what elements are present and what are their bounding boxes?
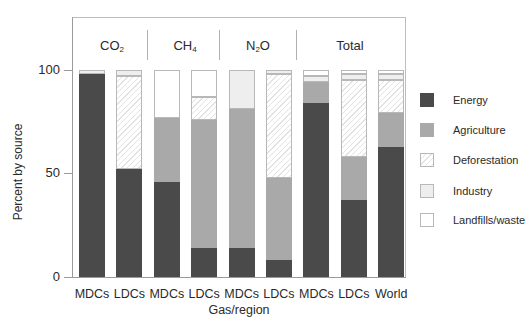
bar-segment-landfills xyxy=(154,70,180,118)
bar-segment-deforestation xyxy=(341,80,367,157)
x-axis-line xyxy=(64,277,406,278)
group-label-n2o: N2O xyxy=(238,38,278,54)
category-label: MDCs xyxy=(222,287,262,301)
bar xyxy=(266,70,292,277)
bar-segment-industry xyxy=(266,70,292,74)
y-axis-label: Percent by source xyxy=(11,124,25,221)
legend-label: Deforestation xyxy=(453,154,518,166)
bar-segment-agriculture xyxy=(229,109,255,248)
bar xyxy=(79,70,105,277)
bar xyxy=(303,70,329,277)
bar-segment-energy xyxy=(341,200,367,277)
group-label-total: Total xyxy=(325,38,375,53)
bar-segment-energy xyxy=(79,74,105,277)
bar-segment-agriculture xyxy=(378,113,404,146)
group-label-ch4: CH4 xyxy=(165,38,205,54)
bar-segment-agriculture xyxy=(191,120,217,248)
legend-label: Energy xyxy=(453,94,488,106)
y-tick-50 xyxy=(64,173,72,174)
category-label: LDCs xyxy=(109,287,149,301)
bar-segment-agriculture xyxy=(154,118,180,182)
x-axis-label: Gas/region xyxy=(179,303,299,317)
category-label: MDCs xyxy=(72,287,112,301)
bar xyxy=(191,70,217,277)
bar-segment-deforestation xyxy=(378,80,404,113)
bar xyxy=(116,70,142,277)
bar-segment-deforestation xyxy=(266,74,292,178)
y-tick-0 xyxy=(64,277,72,278)
legend-swatch-landfills xyxy=(420,213,434,227)
category-label: LDCs xyxy=(334,287,374,301)
bar-segment-industry xyxy=(79,70,105,74)
bar-segment-landfills xyxy=(191,70,217,97)
category-label: MDCs xyxy=(296,287,336,301)
bar-segment-deforestation xyxy=(116,76,142,169)
bar-segment-energy xyxy=(191,248,217,277)
bar-segment-industry xyxy=(303,76,329,82)
bar-segment-energy xyxy=(378,147,404,277)
category-label: MDCs xyxy=(147,287,187,301)
legend-swatch-agriculture xyxy=(420,123,434,137)
bar xyxy=(341,70,367,277)
y-tick-label-100: 100 xyxy=(20,63,60,77)
bar-segment-energy xyxy=(116,169,142,277)
y-tick-label-50: 50 xyxy=(20,166,60,180)
bar-segment-deforestation xyxy=(191,97,217,120)
category-label: World xyxy=(371,287,411,301)
y-tick-label-0: 0 xyxy=(20,270,60,284)
bar-segment-landfills xyxy=(341,70,367,74)
bar-segment-agriculture xyxy=(266,178,292,261)
group-divider xyxy=(219,30,220,60)
group-divider xyxy=(147,30,148,60)
bar xyxy=(229,70,255,277)
group-divider xyxy=(296,30,297,60)
bar-segment-landfills xyxy=(378,70,404,74)
bar-segment-agriculture xyxy=(303,82,329,103)
category-label: LDCs xyxy=(184,287,224,301)
group-label-co2: CO2 xyxy=(92,38,132,54)
y-tick-100 xyxy=(64,70,72,71)
legend-swatch-industry xyxy=(420,184,434,198)
bar-segment-landfills xyxy=(303,70,329,76)
bar-segment-agriculture xyxy=(341,157,367,200)
bar xyxy=(378,70,404,277)
legend-label: Agriculture xyxy=(453,124,506,136)
bar-segment-energy xyxy=(229,248,255,277)
bar-segment-energy xyxy=(303,103,329,277)
bar-segment-industry xyxy=(378,74,404,80)
legend-label: Industry xyxy=(453,185,492,197)
legend-swatch-deforestation xyxy=(420,153,434,167)
bar-segment-industry xyxy=(229,70,255,109)
bar-segment-industry xyxy=(116,70,142,76)
legend-swatch-energy xyxy=(420,93,434,107)
bar xyxy=(154,70,180,277)
category-label: LDCs xyxy=(259,287,299,301)
legend-label: Landfills/waste xyxy=(453,214,525,226)
bar-segment-industry xyxy=(341,74,367,80)
bar-segment-energy xyxy=(154,182,180,277)
bar-segment-energy xyxy=(266,260,292,277)
